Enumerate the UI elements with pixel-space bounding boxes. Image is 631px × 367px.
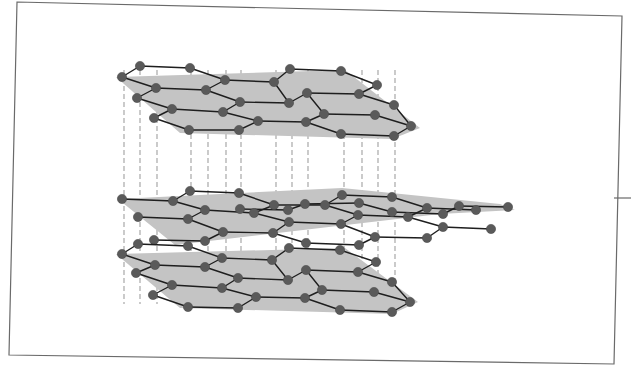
carbon-atom <box>301 117 310 126</box>
carbon-atom <box>217 253 226 262</box>
carbon-atom <box>167 280 176 289</box>
carbon-atom <box>233 303 242 312</box>
carbon-atom <box>185 63 194 72</box>
carbon-atom <box>269 200 278 209</box>
carbon-bond <box>459 206 508 207</box>
carbon-atom <box>337 190 346 199</box>
carbon-atom <box>301 265 310 274</box>
carbon-atom <box>149 235 158 244</box>
carbon-bond <box>140 66 190 68</box>
carbon-atom <box>300 293 309 302</box>
carbon-atom <box>353 210 362 219</box>
top-layer <box>116 61 420 140</box>
carbon-atom <box>372 80 381 89</box>
carbon-atom <box>233 273 242 282</box>
carbon-bond <box>188 307 238 308</box>
carbon-atom <box>251 292 260 301</box>
carbon-atom <box>235 97 244 106</box>
carbon-atom <box>253 116 262 125</box>
carbon-atom <box>249 208 258 217</box>
carbon-atom <box>422 203 431 212</box>
carbon-atom <box>184 125 193 134</box>
carbon-atom <box>387 207 396 216</box>
carbon-atom <box>148 290 157 299</box>
carbon-bond <box>273 233 306 243</box>
carbon-atom <box>284 98 293 107</box>
carbon-atom <box>283 205 292 214</box>
graphene-sheet <box>116 70 420 139</box>
carbon-atom <box>369 287 378 296</box>
carbon-atom <box>370 232 379 241</box>
carbon-atom <box>151 83 160 92</box>
carbon-atom <box>336 129 345 138</box>
carbon-atom <box>336 66 345 75</box>
carbon-atom <box>319 109 328 118</box>
carbon-atom <box>131 268 140 277</box>
carbon-atom <box>301 238 310 247</box>
carbon-atom <box>269 77 278 86</box>
carbon-atom <box>370 110 379 119</box>
carbon-atom <box>406 121 415 130</box>
carbon-atom <box>403 212 412 221</box>
carbon-atom <box>267 255 276 264</box>
carbon-atom <box>183 214 192 223</box>
carbon-bond <box>190 191 239 193</box>
carbon-atom <box>371 257 380 266</box>
carbon-bond <box>443 227 491 229</box>
carbon-bond <box>240 102 289 103</box>
carbon-atom <box>284 217 293 226</box>
carbon-atom <box>336 219 345 228</box>
carbon-atom <box>454 201 463 210</box>
carbon-atom <box>234 188 243 197</box>
carbon-atom <box>200 236 209 245</box>
carbon-atom <box>132 93 141 102</box>
carbon-atom <box>220 75 229 84</box>
carbon-bond <box>306 243 359 245</box>
carbon-atom <box>183 302 192 311</box>
carbon-bond <box>290 69 341 71</box>
carbon-atom <box>405 297 414 306</box>
carbon-atom <box>300 199 309 208</box>
carbon-atom <box>234 125 243 134</box>
carbon-bond <box>305 203 359 204</box>
graphite-layer-diagram <box>0 0 631 367</box>
carbon-atom <box>354 240 363 249</box>
carbon-atom <box>133 212 142 221</box>
carbon-layers <box>116 61 515 316</box>
carbon-atom <box>135 61 144 70</box>
carbon-atom <box>335 305 344 314</box>
carbon-atom <box>503 202 512 211</box>
carbon-atom <box>320 200 329 209</box>
carbon-atom <box>354 198 363 207</box>
carbon-atom <box>200 205 209 214</box>
carbon-atom <box>389 131 398 140</box>
carbon-atom <box>284 243 293 252</box>
carbon-atom <box>133 239 142 248</box>
carbon-atom <box>217 283 226 292</box>
carbon-bond <box>324 114 375 115</box>
carbon-bond <box>408 217 443 227</box>
carbon-bond <box>256 297 305 298</box>
graphene-sheet <box>118 188 515 245</box>
carbon-atom <box>317 285 326 294</box>
carbon-atom <box>422 233 431 242</box>
carbon-atom <box>168 196 177 205</box>
carbon-atom <box>201 85 210 94</box>
carbon-atom <box>218 227 227 236</box>
carbon-bond <box>375 237 427 238</box>
carbon-atom <box>149 113 158 122</box>
carbon-atom <box>150 260 159 269</box>
carbon-atom <box>200 262 209 271</box>
carbon-atom <box>387 277 396 286</box>
carbon-atom <box>389 100 398 109</box>
carbon-atom <box>387 307 396 316</box>
carbon-atom <box>387 192 396 201</box>
carbon-atom <box>285 64 294 73</box>
carbon-bond <box>240 209 288 210</box>
carbon-atom <box>183 241 192 250</box>
carbon-atom <box>283 275 292 284</box>
carbon-bond <box>341 224 375 237</box>
carbon-atom <box>438 209 447 218</box>
carbon-atom <box>268 228 277 237</box>
carbon-bond <box>258 121 306 122</box>
